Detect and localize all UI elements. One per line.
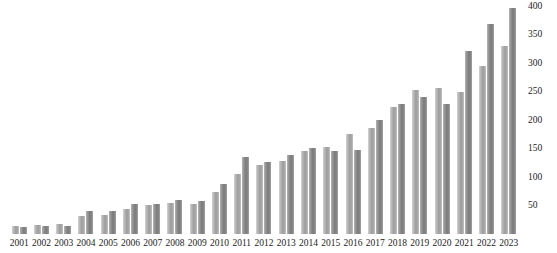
x-axis-tick-label: 2015 [320,237,342,249]
bar [101,215,108,234]
x-axis-tick-label: 2001 [8,237,30,249]
bar [354,150,361,234]
bar [465,51,472,234]
bar [153,204,160,234]
bar-group-inner [119,0,141,234]
bar-group-inner [142,0,164,234]
x-axis-tick-label: 2005 [97,237,119,249]
bar-group [30,0,52,234]
bar-group-inner [253,0,275,234]
bar-group [297,0,319,234]
x-axis-tick-label: 2021 [453,237,475,249]
bar [501,46,508,234]
bar [398,104,405,234]
bar [509,8,516,234]
bar-group [8,0,30,234]
bar [131,204,138,234]
x-axis-tick-label: 2014 [297,237,319,249]
bar-group-inner [386,0,408,234]
bar-group-inner [97,0,119,234]
bar [479,66,486,234]
x-axis-tick-label: 2023 [498,237,520,249]
bar [376,120,383,234]
bar [435,88,442,234]
x-axis-tick-label: 2019 [409,237,431,249]
bar-group-inner [364,0,386,234]
bar-group-inner [431,0,453,234]
y-axis: 50100150200250300350400 [524,0,557,234]
bar [34,225,41,234]
y-axis-tick-label: 50 [528,200,538,210]
x-axis-tick-label: 2013 [275,237,297,249]
y-axis-tick-label: 100 [528,172,542,182]
bar-group-inner [8,0,30,234]
bar-group [364,0,386,234]
bar-group-inner [164,0,186,234]
bar-group [119,0,141,234]
bar [212,192,219,234]
bar [123,209,130,234]
bar-group [97,0,119,234]
bar-group [342,0,364,234]
bar-group [208,0,230,234]
y-axis-tick-label: 150 [528,143,542,153]
bar [309,148,316,234]
bar [457,92,464,234]
x-axis-labels: 2001200220032004200520062007200820092010… [8,234,520,253]
bar [198,201,205,234]
bar-group-inner [498,0,520,234]
x-axis-tick-label: 2006 [119,237,141,249]
bar-group [53,0,75,234]
bar-group-inner [30,0,52,234]
bar-group-inner [453,0,475,234]
bar-group [498,0,520,234]
bar [190,204,197,234]
bar-group-inner [208,0,230,234]
x-axis-tick-label: 2017 [364,237,386,249]
bar [64,226,71,234]
bar [368,128,375,234]
x-axis-tick-label: 2003 [53,237,75,249]
bar-group [142,0,164,234]
bar [42,226,49,234]
bar-group [164,0,186,234]
bar [145,205,152,234]
bar-group-inner [275,0,297,234]
y-axis-tick-label: 200 [528,115,542,125]
x-axis-tick-label: 2010 [208,237,230,249]
bar [56,224,63,234]
y-axis-tick-label: 400 [528,1,542,11]
bar-group [75,0,97,234]
bar-group [253,0,275,234]
bar-chart: 2001200220032004200520062007200820092010… [0,0,557,253]
bar-group [275,0,297,234]
bar-group-inner [320,0,342,234]
bar [256,165,263,234]
bar-group [431,0,453,234]
bar [86,211,93,234]
bar [167,203,174,234]
x-axis-tick-label: 2011 [231,237,253,249]
bar-group [231,0,253,234]
x-axis-tick-label: 2009 [186,237,208,249]
bar-group [475,0,497,234]
y-axis-tick-label: 300 [528,58,542,68]
bar [287,155,294,234]
x-axis-tick-label: 2004 [75,237,97,249]
bar [301,151,308,234]
bar [175,200,182,234]
bar-group-inner [186,0,208,234]
bar [487,24,494,234]
bar [109,211,116,234]
bar [412,90,419,234]
x-axis-tick-label: 2008 [164,237,186,249]
bar [279,161,286,234]
bar-group-inner [475,0,497,234]
bar-group [386,0,408,234]
bar [12,226,19,234]
bar [20,227,27,234]
bar [220,184,227,234]
bar-group [186,0,208,234]
x-axis-tick-label: 2018 [386,237,408,249]
bar [323,147,330,234]
